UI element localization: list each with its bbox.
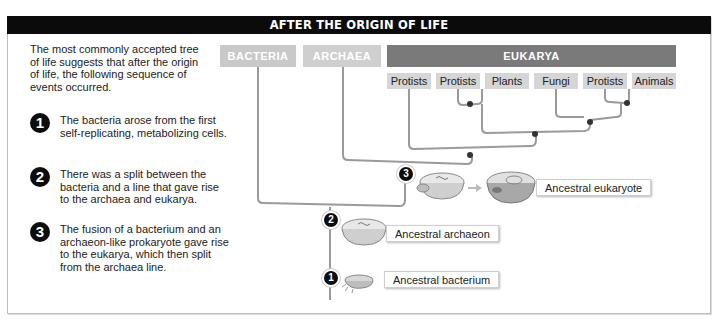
marker-2-icon: 2 [322,211,340,229]
marker-3-icon: 3 [397,165,415,183]
label-ancestral-bacterium: Ancestral bacterium [384,271,499,288]
phylogenetic-tree [0,0,719,328]
label-ancestral-eukaryote: Ancestral eukaryote [536,179,651,196]
marker-1-icon: 1 [322,269,340,287]
ancestral-bacterium-cell-icon [342,275,373,293]
label-ancestral-archaeon: Ancestral archaeon [386,225,499,242]
fusion-cell-icon [417,173,482,199]
ancestral-archaeon-cell-icon [342,219,386,245]
ancestral-eukaryote-cell-icon [487,172,535,203]
